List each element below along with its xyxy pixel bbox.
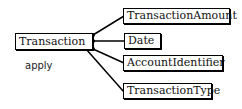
transaction-type-node[interactable]: TransactionType	[123, 83, 212, 99]
apply-annotation: apply	[25, 60, 53, 71]
connector-transaction-amount	[93, 16, 124, 35]
transaction-node-label: Transaction	[19, 35, 85, 48]
transaction-amount-label: TransactionAmount	[127, 9, 237, 22]
transaction-node[interactable]: Transaction	[15, 33, 93, 50]
account-identifier-node[interactable]: AccountIdentifier	[123, 55, 223, 71]
account-identifier-label: AccountIdentifier	[127, 56, 225, 69]
connector-transaction-type	[86, 49, 124, 92]
date-node[interactable]: Date	[124, 33, 161, 49]
connector-account-identifier	[93, 49, 124, 63]
transaction-amount-node[interactable]: TransactionAmount	[123, 8, 230, 24]
transaction-type-label: TransactionType	[127, 84, 220, 97]
date-label: Date	[128, 34, 154, 47]
